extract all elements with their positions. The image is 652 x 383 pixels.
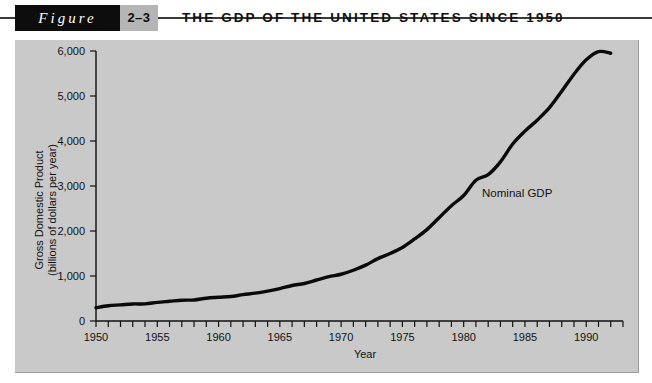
y-axis-tick-labels: 01,0002,0003,0004,0005,0006,000 [57,45,85,327]
chart-panel: 01,0002,0003,0004,0005,0006,000 19501955… [15,40,639,373]
x-tick-label: 1975 [390,331,414,343]
y-axis-title-line2: (billions of dollars per year) [46,144,58,276]
x-tick-label: 1955 [145,331,169,343]
nominal-gdp-line [96,51,611,307]
x-tick-label: 1990 [574,331,598,343]
x-tick-label: 1960 [206,331,230,343]
y-tick-label: 4,000 [57,135,85,147]
y-axis-tick-marks [90,51,96,321]
x-tick-label: 1970 [329,331,353,343]
y-tick-label: 2,000 [57,225,85,237]
figure-header: Figure 2–3 THE GDP OF THE UNITED STATES … [0,5,652,31]
figure-label-bar: Figure [15,5,120,31]
x-tick-label: 1985 [513,331,537,343]
x-axis-tick-marks [96,321,623,327]
x-axis-tick-labels: 195019551960196519701975198019851990 [84,331,599,343]
x-tick-label: 1980 [451,331,475,343]
figure-number-box: 2–3 [120,5,158,31]
gdp-line-chart: 01,0002,0003,0004,0005,0006,000 19501955… [15,40,638,372]
x-axis-title: Year [354,348,377,360]
y-tick-label: 3,000 [57,180,85,192]
y-tick-label: 5,000 [57,90,85,102]
y-tick-label: 6,000 [57,45,85,57]
y-axis-title-line1: Gross Domestic Product [33,150,45,269]
x-tick-label: 1950 [84,331,108,343]
chart-axes [96,51,623,321]
y-tick-label: 1,000 [57,270,85,282]
figure-title: THE GDP OF THE UNITED STATES SINCE 1950 [182,5,565,31]
figure-word: Figure [15,5,120,31]
x-tick-label: 1965 [268,331,292,343]
nominal-gdp-annotation: Nominal GDP [482,187,553,199]
y-tick-label: 0 [79,315,85,327]
